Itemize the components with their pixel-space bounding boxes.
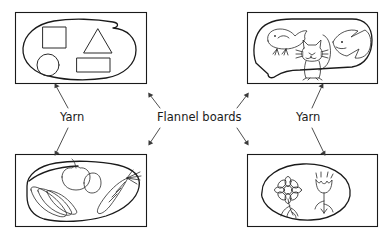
leader-yarn-right-to-bottom-right: [312, 128, 325, 156]
board-bottom-left: [16, 155, 147, 227]
board-top-left: [16, 13, 147, 84]
flannel-boards-diagram: Flannel boards Yarn Yarn: [0, 0, 392, 238]
label-yarn-right: Yarn: [294, 110, 322, 124]
leader-yarn-left-to-bottom-left: [55, 128, 68, 156]
board-frame-bottom-right: [248, 155, 378, 227]
board-frame-top-left: [16, 13, 147, 84]
board-frame-bottom-left: [16, 155, 147, 227]
leader-yarn-left-to-top-left: [55, 83, 69, 108]
leader-flannel-to-bottom-left: [148, 128, 160, 146]
leader-yarn-right-to-top-right: [312, 83, 323, 108]
label-yarn-left: Yarn: [58, 110, 86, 124]
leader-flannel-to-top-right: [237, 93, 249, 108]
leader-flannel-to-bottom-right: [237, 128, 249, 146]
label-flannel-boards: Flannel boards: [155, 110, 244, 124]
board-top-right: [248, 13, 378, 84]
leader-flannel-to-top-left: [148, 93, 160, 108]
board-bottom-right: [248, 155, 378, 227]
